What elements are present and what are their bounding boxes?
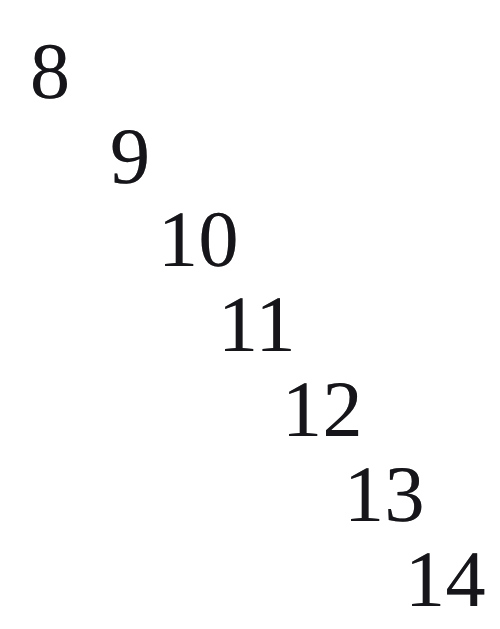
page-number-10: 10 xyxy=(158,200,239,280)
page-number-8: 8 xyxy=(30,32,70,112)
page-number-14: 14 xyxy=(405,540,486,620)
page-number-13: 13 xyxy=(344,455,425,535)
page-canvas: 891011121314 xyxy=(0,0,500,629)
page-number-9: 9 xyxy=(110,117,150,197)
page-number-12: 12 xyxy=(282,370,363,450)
page-number-11: 11 xyxy=(218,285,296,365)
